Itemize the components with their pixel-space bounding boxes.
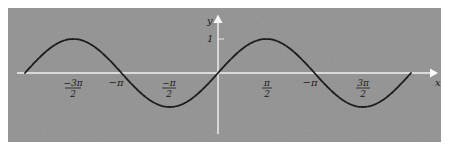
x-tick-label-neg-pi: −π xyxy=(109,77,124,88)
plot-panel xyxy=(8,8,441,142)
y-tick-label-1: 1 xyxy=(207,33,213,44)
svg-text:3π: 3π xyxy=(357,78,370,88)
x-tick-label-pi: −π xyxy=(303,77,318,88)
svg-text:2: 2 xyxy=(69,89,76,99)
svg-text:2: 2 xyxy=(263,89,270,99)
svg-text:−π: −π xyxy=(162,78,177,88)
x-axis-label: x xyxy=(435,77,441,88)
svg-text:π: π xyxy=(263,78,271,88)
y-axis-label: y xyxy=(206,15,213,26)
svg-text:−3π: −3π xyxy=(63,78,83,88)
sine-graph: y x 1 −3π 2 −π −π 2 π 2 −π 3π 2 xyxy=(0,0,449,150)
svg-text:2: 2 xyxy=(359,89,366,99)
svg-text:2: 2 xyxy=(165,89,172,99)
